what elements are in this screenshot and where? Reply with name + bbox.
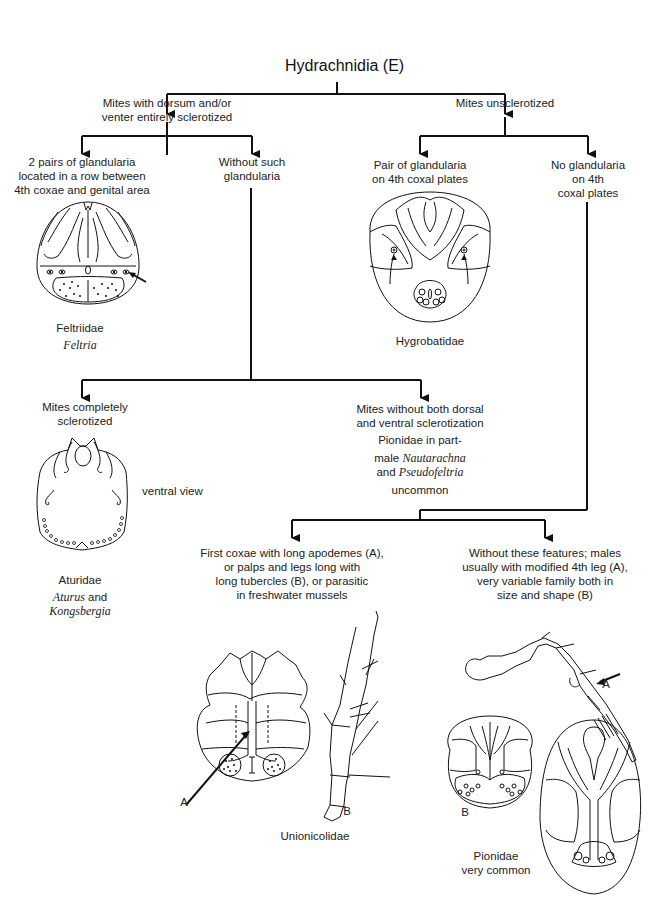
unionicolidae-label-a: A <box>178 795 190 809</box>
node-text: Mites unsclerotized <box>405 96 605 110</box>
node-text: coxal plates <box>538 186 638 200</box>
status-text: very common <box>446 863 546 877</box>
node-text: on 4th <box>538 172 638 186</box>
hygrobatidae-label: Hygrobatidae <box>390 334 470 348</box>
unionicolidae-label-b: B <box>341 804 353 818</box>
node-text: First coxae with long apodemes (A), <box>197 546 387 560</box>
genus-name: Aturus <box>53 590 85 604</box>
unionicolidae-illustration <box>180 605 400 835</box>
pionidae-label: Pionidae very common <box>446 849 546 877</box>
node-two-pairs: 2 pairs of glandularia located in a row … <box>0 155 167 197</box>
node-unsclerotized: Mites unsclerotized <box>405 96 605 110</box>
status-text: uncommon <box>340 483 500 497</box>
node-text: Without such <box>202 155 302 169</box>
genera: Aturus and <box>30 590 130 604</box>
unionicolidae-label: Unionicolidae <box>265 829 365 843</box>
node-sclerotized: Mites with dorsum and/or venter entirely… <box>67 96 267 124</box>
node-without-such: Without such glandularia <box>202 155 302 183</box>
family-name: Hygrobatidae <box>390 334 470 348</box>
node-text: size and shape (B) <box>455 588 635 602</box>
node-text: usually with modified 4th leg (A), <box>455 560 635 574</box>
pionidae-label-b: B <box>458 805 472 819</box>
node-pair-glandularia: Pair of glandularia on 4th coxal plates <box>350 158 490 186</box>
node-completely-sclerotized: Mites completely sclerotized <box>25 400 145 428</box>
node-text: or palps and legs long with <box>197 560 387 574</box>
node-text: located in a row between <box>0 169 167 183</box>
node-text: 4th coxae and genital area <box>0 183 167 197</box>
genus-name: Pseudofeltria <box>399 465 464 479</box>
feltriidae-label: Feltriidae Feltria <box>30 321 130 352</box>
note-text: male <box>374 452 399 464</box>
family-name: Aturidae <box>30 573 130 587</box>
note-text: Pionidae in part- <box>340 433 500 447</box>
note-text: male Nautarachna <box>340 451 500 465</box>
conjunction: and <box>88 591 107 603</box>
hygrobatidae-illustration <box>360 184 500 324</box>
node-text: Mites with dorsum and/or <box>67 96 267 110</box>
note-text: and Pseudofeltria <box>340 465 500 479</box>
key-title: Hydrachnidia (E) <box>285 57 404 75</box>
node-text: and ventral sclerotization <box>340 416 500 430</box>
node-text: venter entirely sclerotized <box>67 110 267 124</box>
genus-name: Kongsbergia <box>30 604 130 618</box>
genus-name: Nautarachna <box>402 451 465 465</box>
node-text: in freshwater mussels <box>197 588 387 602</box>
node-text: No glandularia <box>538 158 638 172</box>
aturidae-label: Aturidae Aturus and Kongsbergia <box>30 573 130 618</box>
pionidae-in-part: Pionidae in part- male Nautarachna and P… <box>340 433 500 497</box>
node-text: very variable family both in <box>455 574 635 588</box>
genus-name: Feltria <box>30 338 130 352</box>
node-text: Pair of glandularia <box>350 158 490 172</box>
node-text: long tubercles (B), or parasitic <box>197 574 387 588</box>
node-text: glandularia <box>202 169 302 183</box>
view-label: ventral view <box>142 484 212 498</box>
node-text: Without these features; males <box>455 546 635 560</box>
feltriidae-illustration <box>28 198 148 308</box>
node-text: sclerotized <box>25 414 145 428</box>
note-text: and <box>376 466 395 478</box>
family-name: Pionidae <box>446 849 546 863</box>
node-text: 2 pairs of glandularia <box>0 155 167 169</box>
aturidae-illustration <box>30 432 135 554</box>
node-no-glandularia: No glandularia on 4th coxal plates <box>538 158 638 200</box>
family-name: Feltriidae <box>30 321 130 335</box>
pionidae-label-a: A <box>600 677 612 691</box>
node-text: Mites completely <box>25 400 145 414</box>
node-text: Mites without both dorsal <box>340 402 500 416</box>
node-without-features: Without these features; males usually wi… <box>455 546 635 602</box>
node-first-coxae: First coxae with long apodemes (A), or p… <box>197 546 387 602</box>
node-without-both: Mites without both dorsal and ventral sc… <box>340 402 500 430</box>
